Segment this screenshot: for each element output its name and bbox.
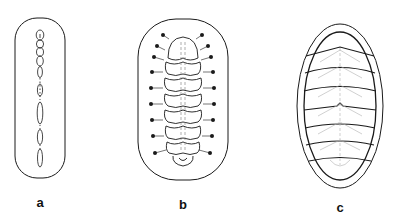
chiton-figure <box>0 0 393 223</box>
panel-b-outline <box>138 19 228 180</box>
panel-c-drawing <box>297 24 383 188</box>
panel-b-plates <box>164 37 201 166</box>
panel-b-drawing <box>138 19 228 180</box>
panel-a-label: a <box>36 195 43 210</box>
panel-c-label: c <box>336 200 343 215</box>
panel-a-outline <box>15 18 65 178</box>
panel-a-drawing <box>15 18 65 178</box>
panel-b-label: b <box>179 197 187 212</box>
panel-a-plates <box>36 30 44 167</box>
